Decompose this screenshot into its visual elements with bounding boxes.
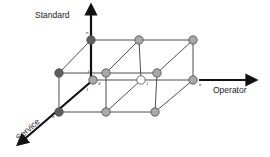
node-operator-1 [137,76,145,84]
edge [106,40,139,73]
node-standard-n-service-n-operator-n [153,69,161,77]
edge [155,80,193,112]
edge [155,73,157,112]
node-standard-n-service-n-operator-1 [102,69,110,77]
tick-standard-1: 1 [87,69,90,74]
lattice-nodes [55,36,197,116]
node-standard-n-operator-n [189,36,197,44]
node-standard-n [87,36,95,44]
edge [157,40,193,73]
node-service-n-operator-n [151,108,159,116]
operator-axis-label: Operator [213,85,247,95]
tick-service-1: 1 [86,87,89,92]
node-service-n-operator-1 [102,108,110,116]
node-operator-n [189,76,197,84]
edge [139,40,141,80]
lattice-diagram: Standard Operator Service n 1 0 1 n 1 n [0,0,270,157]
lattice-edges [59,40,193,112]
node-standard-n-service-n [55,69,63,77]
tick-service-n: n [52,114,55,119]
node-origin [89,76,97,84]
tick-origin-0: 0 [98,81,101,86]
tick-operator-n: n [199,82,202,87]
edge [106,80,141,112]
standard-axis-label: Standard [35,10,70,20]
tick-standard-n: n [86,30,89,35]
node-standard-n-operator-1 [135,36,143,44]
node-service-n [55,108,63,116]
service-axis-label: Service [14,116,42,142]
tick-operator-1: 1 [146,81,149,86]
